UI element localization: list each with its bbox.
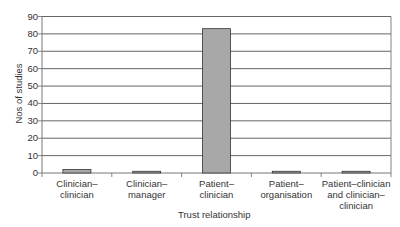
x-category-label: Patient–clinicianand clinician–clinician (311, 178, 400, 211)
y-tick-label: 80 (18, 29, 38, 39)
bar (272, 171, 300, 173)
y-tick-label: 90 (18, 12, 38, 22)
bar (342, 171, 370, 173)
y-tick-label: 0 (18, 168, 38, 178)
bar (133, 171, 161, 173)
bar (203, 29, 231, 173)
y-tick-label: 10 (18, 151, 38, 161)
bar (63, 170, 91, 173)
x-axis-title: Trust relationship (178, 209, 251, 220)
y-axis-title: Nos of studies (13, 54, 24, 134)
y-tick-label: 20 (18, 133, 38, 143)
bar-chart: 0102030405060708090 Clinician–clinicianC… (0, 0, 400, 227)
